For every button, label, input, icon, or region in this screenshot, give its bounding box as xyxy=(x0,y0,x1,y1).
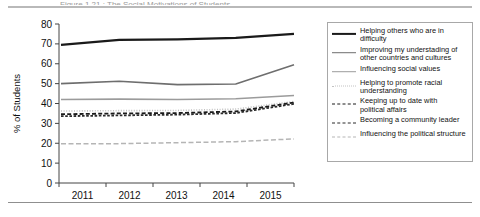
legend-item[interactable]: Improving my understading of other count… xyxy=(332,46,469,63)
y-tick-label: 70 xyxy=(41,38,53,49)
y-tick-label: 30 xyxy=(41,118,53,129)
x-tick-label: 2012 xyxy=(118,190,141,201)
series-line xyxy=(61,103,294,115)
series-line xyxy=(61,34,294,45)
legend-item-label: Improving my understading of other count… xyxy=(360,46,457,63)
y-tick-label: 50 xyxy=(41,78,53,89)
top-divider xyxy=(8,6,472,8)
y-tick-label: 80 xyxy=(41,19,53,30)
chart-legend: Helping others who are in difficultyImpr… xyxy=(327,22,473,162)
x-tick-label: 2015 xyxy=(259,190,282,201)
legend-item[interactable]: Becoming a community leader xyxy=(332,116,469,128)
series-line xyxy=(61,139,294,144)
x-tick-label: 2013 xyxy=(165,190,188,201)
y-tick-label: 60 xyxy=(41,58,53,69)
legend-swatch-icon xyxy=(332,81,356,91)
legend-item[interactable]: Keeping up to date with political affair… xyxy=(332,97,469,114)
legend-swatch-icon xyxy=(332,48,356,58)
legend-item[interactable]: Helping others who are in difficulty xyxy=(332,27,469,44)
y-axis-title: % of Students xyxy=(11,74,22,133)
y-tick-label: 0 xyxy=(46,178,52,189)
bottom-divider xyxy=(8,202,472,203)
legend-item-label: Becoming a community leader xyxy=(360,116,459,124)
series-line xyxy=(61,65,294,85)
legend-item[interactable]: Influencing social values xyxy=(332,65,469,77)
figure-container: Figure 1.21 : The Social Motivations of … xyxy=(0,0,480,217)
x-tick-label: 2014 xyxy=(212,190,235,201)
y-tick-label: 10 xyxy=(41,158,53,169)
y-tick-label: 20 xyxy=(41,138,53,149)
legend-item[interactable]: Influencing the political structure xyxy=(332,130,469,142)
legend-item-label: Keeping up to date with political affair… xyxy=(360,97,437,114)
legend-swatch-icon xyxy=(332,99,356,109)
x-tick-label: 2011 xyxy=(72,190,94,201)
legend-swatch-icon xyxy=(332,29,356,39)
figure-title: Figure 1.21 : The Social Motivations of … xyxy=(60,0,360,5)
legend-item-label: Influencing social values xyxy=(360,65,440,73)
y-tick-label: 40 xyxy=(41,98,53,109)
series-line xyxy=(61,96,294,100)
legend-item-label: Helping others who are in difficulty xyxy=(360,27,469,44)
legend-swatch-icon xyxy=(332,67,356,77)
legend-item[interactable]: Helping to promote racial understanding xyxy=(332,79,469,96)
legend-item-label: Helping to promote racial understanding xyxy=(360,79,442,96)
legend-swatch-icon xyxy=(332,118,356,128)
legend-swatch-icon xyxy=(332,132,356,142)
legend-item-label: Influencing the political structure xyxy=(360,130,466,138)
